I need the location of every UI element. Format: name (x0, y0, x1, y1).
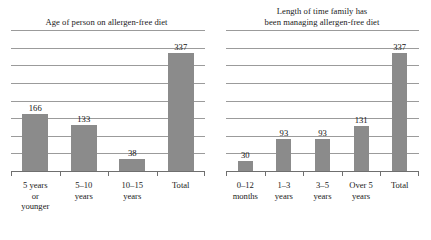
bar (22, 114, 48, 173)
bar (276, 139, 291, 172)
x-axis-line-duration (226, 171, 419, 172)
category-tick (380, 172, 381, 176)
chart-title-duration: Length of time family has been managing … (219, 0, 425, 28)
bar (71, 125, 97, 172)
axis-end-tick-left-age (11, 172, 12, 176)
bar-value-label: 166 (11, 104, 60, 113)
chart-panel-age: Age of person on allergen-free diet 1661… (0, 0, 215, 240)
axis-end-tick-right-age (204, 172, 205, 176)
bar-slot: 30 (226, 31, 265, 172)
bar (315, 139, 330, 172)
bar (354, 126, 369, 172)
bar-value-label: 131 (342, 116, 381, 125)
chart-title-age: Age of person on allergen-free diet (4, 0, 209, 28)
category-tick (157, 172, 158, 176)
category-ticks-duration (226, 172, 419, 176)
category-tick (342, 172, 343, 176)
bar-slot: 93 (303, 31, 342, 172)
bar-value-label: 337 (380, 43, 419, 52)
x-axis-labels-age: 5 years or younger5–10 years10–15 yearsT… (11, 180, 205, 212)
bar (119, 159, 145, 172)
category-tick (265, 172, 266, 176)
bar (168, 53, 194, 172)
x-axis-line-age (11, 171, 205, 172)
two-bar-charts-figure: Age of person on allergen-free diet 1661… (0, 0, 431, 240)
axis-end-tick-left-duration (226, 172, 227, 176)
chart-panel-duration: Length of time family has been managing … (215, 0, 431, 240)
x-axis-label: 5–10 years (60, 180, 109, 212)
bar-value-label: 38 (108, 149, 157, 158)
category-tick (108, 172, 109, 176)
category-tick (60, 172, 61, 176)
x-axis-label: Total (380, 180, 419, 201)
bar-slot: 133 (60, 31, 109, 172)
bar-slot: 131 (342, 31, 381, 172)
bar-value-label: 30 (226, 151, 265, 160)
category-tick (303, 172, 304, 176)
bar-slot: 38 (108, 31, 157, 172)
bar-value-label: 337 (157, 43, 206, 52)
bar-value-label: 93 (265, 129, 304, 138)
x-axis-label: 0–12 months (226, 180, 265, 201)
bar-slot: 166 (11, 31, 60, 172)
plot-area-duration: 309393131337 (226, 31, 419, 172)
bar-value-label: 133 (60, 115, 109, 124)
x-axis-label: Over 5 years (342, 180, 381, 201)
bar (392, 53, 407, 172)
bar-value-label: 93 (303, 129, 342, 138)
bar-slot: 337 (380, 31, 419, 172)
bar-slot: 337 (157, 31, 206, 172)
bar-slot: 93 (265, 31, 304, 172)
x-axis-label: 5 years or younger (11, 180, 60, 212)
bars-age: 16613338337 (11, 31, 205, 172)
category-ticks-age (11, 172, 205, 176)
x-axis-labels-duration: 0–12 months1–3 years3–5 yearsOver 5 year… (226, 180, 419, 201)
bars-duration: 309393131337 (226, 31, 419, 172)
plot-area-age: 16613338337 (11, 31, 205, 172)
x-axis-label: 10–15 years (108, 180, 157, 212)
axis-end-tick-right-duration (418, 172, 419, 176)
x-axis-label: Total (157, 180, 206, 212)
x-axis-label: 1–3 years (265, 180, 304, 201)
x-axis-label: 3–5 years (303, 180, 342, 201)
